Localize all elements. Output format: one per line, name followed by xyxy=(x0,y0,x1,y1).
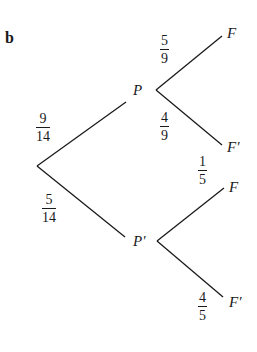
tree-lines xyxy=(0,0,257,352)
numerator: 4 xyxy=(160,111,169,126)
branch-P-prime-to-F xyxy=(157,188,224,241)
denominator: 9 xyxy=(161,50,168,66)
prob-P-prime-to-F: 1 5 xyxy=(198,155,207,187)
node-P: P xyxy=(133,83,142,98)
denominator: 14 xyxy=(36,128,50,144)
denominator: 14 xyxy=(42,209,56,225)
numerator: 1 xyxy=(198,155,207,170)
node-P-prime: P' xyxy=(133,234,145,249)
numerator: 4 xyxy=(198,291,207,306)
denominator: 5 xyxy=(199,171,206,187)
numerator: 5 xyxy=(45,193,54,208)
prob-P-to-F-prime: 4 9 xyxy=(160,111,169,143)
part-label: b xyxy=(5,30,14,46)
prob-P-to-F: 5 9 xyxy=(160,34,169,66)
node-F-prime-bottom: F′ xyxy=(229,295,241,310)
branch-root-to-P xyxy=(37,102,126,166)
numerator: 9 xyxy=(39,112,48,127)
node-F-bottom: F xyxy=(229,180,238,195)
denominator: 9 xyxy=(161,127,168,143)
denominator: 5 xyxy=(199,307,206,323)
node-F-prime-top: F′ xyxy=(227,140,239,155)
branch-P-prime-to-F-prime xyxy=(157,241,223,297)
prob-root-to-P-prime: 5 14 xyxy=(42,193,56,225)
prob-P-prime-to-F-prime: 4 5 xyxy=(198,291,207,323)
prob-root-to-P: 9 14 xyxy=(36,112,50,144)
node-F-top: F xyxy=(227,26,236,41)
numerator: 5 xyxy=(160,34,169,49)
